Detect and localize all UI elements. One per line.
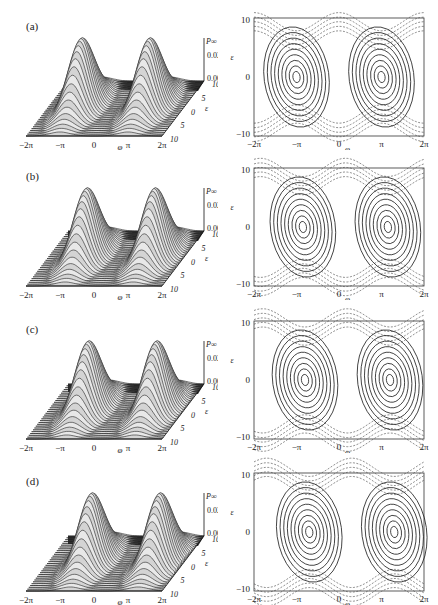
x-tick-label: π (126, 595, 131, 605)
eps-tick-label: 5 (181, 271, 185, 280)
open-orbit-dashed (254, 477, 424, 495)
closed-orbit (351, 326, 429, 435)
eps-tick-label: 0 (191, 563, 195, 572)
closed-orbit (262, 29, 332, 126)
z-axis-label: P∞ (205, 187, 217, 196)
x-axis-label: φ (118, 142, 123, 150)
eps-axis-label: ε (205, 104, 209, 113)
z-tick-label: 0.00 (207, 74, 218, 83)
closed-orbit (360, 338, 421, 423)
open-orbit-dashed (254, 119, 424, 137)
z-tick-label: 0.02 (207, 51, 218, 60)
x-tick-label: −π (55, 140, 65, 150)
contour-x-tick-label: π (379, 594, 384, 604)
contour-y-axis-label: ε (230, 53, 234, 62)
contour-plot: −2π−π0π2πφ100−10ε (218, 303, 438, 453)
contour-y-axis-label: ε (230, 203, 234, 212)
open-orbit-dashed (254, 17, 424, 35)
x-tick-label: 2π (157, 443, 167, 453)
z-axis-label: P∞ (205, 340, 217, 349)
open-orbit-dashed (254, 309, 424, 327)
closed-orbit (384, 221, 393, 233)
eps-axis-label: ε (205, 407, 209, 416)
closed-orbit (386, 520, 403, 544)
closed-orbit (257, 23, 335, 132)
contour-y-tick-label: 0 (246, 527, 251, 537)
closed-orbit (279, 490, 340, 575)
contour-x-tick-label: −π (292, 442, 302, 452)
contour-x-tick-label: 0 (337, 594, 342, 604)
closed-orbit (301, 374, 310, 386)
open-orbit-dashed (254, 177, 424, 195)
contour-y-tick-label: 0 (246, 72, 251, 82)
contour-x-tick-label: 2π (419, 442, 429, 452)
closed-orbit (377, 71, 386, 83)
contour-x-tick-label: 0 (337, 289, 342, 299)
x-tick-label: 2π (157, 595, 167, 605)
surface-plot: −2π−π0π2πφ1050510εP∞0.020.00 (0, 303, 218, 453)
x-tick-label: −2π (19, 140, 34, 150)
contour-y-tick-label: 0 (246, 222, 251, 232)
open-orbit-dashed (254, 467, 424, 485)
open-orbit-dashed (254, 569, 424, 587)
z-axis-label: P∞ (205, 37, 217, 46)
surface-plot: −2π−π0π2πφ1050510εP∞0.020.00 (0, 455, 218, 605)
contour-x-axis-label: φ (345, 447, 350, 453)
contour-frame (254, 473, 424, 591)
closed-orbit (349, 173, 427, 282)
x-tick-label: 0 (92, 290, 97, 300)
contour-frame (254, 18, 424, 136)
eps-tick-label: 5 (202, 549, 206, 558)
contour-x-tick-label: 0 (337, 139, 342, 149)
closed-orbit (379, 215, 396, 239)
contour-plot: −2π−π0π2πφ100−10ε (218, 455, 438, 605)
closed-orbit (270, 332, 340, 429)
closed-orbit (351, 35, 412, 120)
closed-orbit (270, 478, 348, 587)
x-tick-label: 0 (92, 443, 97, 453)
x-tick-label: 0 (92, 595, 97, 605)
eps-axis-label: ε (205, 559, 209, 568)
closed-orbit (266, 35, 327, 120)
eps-axis-label: ε (205, 254, 209, 263)
closed-orbit (342, 23, 420, 132)
contour-x-tick-label: −π (292, 289, 302, 299)
contour-plot: −2π−π0π2πφ100−10ε (218, 0, 438, 150)
contour-x-tick-label: 2π (419, 139, 429, 149)
x-tick-label: −2π (19, 290, 34, 300)
closed-orbit (283, 59, 309, 95)
closed-orbit (355, 332, 425, 429)
eps-tick-label: 5 (202, 397, 206, 406)
surface-plot: −2π−π0π2πφ1050510εP∞0.020.00 (0, 0, 218, 150)
closed-orbit (381, 368, 398, 392)
closed-orbit (386, 374, 395, 386)
x-tick-label: π (126, 443, 131, 453)
x-tick-label: −π (55, 443, 65, 453)
eps-tick-label: 5 (202, 94, 206, 103)
closed-orbit (373, 65, 390, 89)
surface-plot: −2π−π0π2πφ1050510εP∞0.020.00 (0, 150, 218, 300)
contour-x-tick-label: π (379, 139, 384, 149)
closed-orbit (353, 179, 423, 276)
contour-y-tick-label: −10 (236, 584, 251, 594)
closed-orbit (305, 526, 314, 538)
open-orbit-dashed (254, 458, 424, 476)
contour-x-tick-label: 0 (337, 442, 342, 452)
eps-tick-label: 5 (181, 576, 185, 585)
eps-tick-label: 0 (191, 411, 195, 420)
eps-tick-label: 0 (191, 108, 195, 117)
contour-y-tick-label: 0 (246, 375, 251, 385)
open-orbit-dashed (254, 463, 424, 481)
contour-x-tick-label: 2π (419, 289, 429, 299)
open-orbit-dashed (254, 472, 424, 490)
open-orbit-dashed (254, 259, 424, 277)
contour-x-axis-label: φ (345, 294, 350, 300)
closed-orbit (296, 514, 322, 550)
panel-row-d: (d)−2π−π0π2πφ1050510εP∞0.020.00−2π−π0π2π… (0, 455, 438, 605)
open-orbit-dashed (254, 167, 424, 185)
x-tick-label: −2π (19, 595, 34, 605)
closed-orbit (364, 490, 425, 575)
contour-y-axis-label: ε (230, 356, 234, 365)
contour-y-tick-label: 10 (241, 15, 251, 25)
contour-y-tick-label: 10 (241, 318, 251, 328)
